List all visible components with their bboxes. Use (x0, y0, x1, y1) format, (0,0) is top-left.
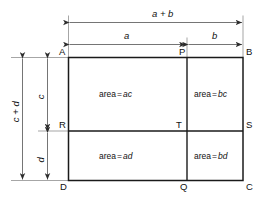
area-word-top-right: area (194, 89, 211, 99)
vertex-label-t: T (176, 120, 182, 130)
vertex-label-r: R (59, 120, 66, 130)
outer-rectangle (69, 58, 244, 181)
vertex-label-b: B (246, 47, 253, 57)
area-equals-bottom-left: = (116, 151, 123, 161)
area-word-bottom-right: area (194, 151, 211, 161)
area-value-bottom-left: ad (123, 151, 132, 161)
dimension-label-left-width: a (124, 31, 129, 41)
dimension-label-right-width: b (212, 31, 217, 41)
dimension-label-total-height: c + d (11, 101, 21, 122)
dimension-label-upper-height: c (36, 94, 46, 99)
area-label-bottom-left: area=ad (99, 152, 132, 161)
area-label-top-right: area=bc (194, 90, 227, 99)
vertex-label-d: D (60, 182, 67, 192)
area-model-diagram: a + b a b c + d c d A B C D P Q R S T ar… (0, 0, 268, 206)
vertex-label-c: C (246, 182, 253, 192)
area-equals-top-left: = (116, 89, 123, 99)
dimension-label-total-width: a + b (152, 9, 173, 19)
area-equals-top-right: = (211, 89, 218, 99)
area-label-bottom-right: area=bd (194, 152, 227, 161)
area-value-top-left: ac (123, 89, 132, 99)
vertex-label-s: S (246, 120, 253, 130)
diagram-lines (0, 0, 268, 206)
area-value-top-right: bc (218, 89, 227, 99)
area-word-bottom-left: area (99, 151, 116, 161)
area-equals-bottom-right: = (211, 151, 218, 161)
vertex-label-a: A (59, 47, 66, 57)
vertex-label-q: Q (180, 182, 188, 192)
area-word-top-left: area (99, 89, 116, 99)
area-label-top-left: area=ac (99, 90, 132, 99)
vertex-label-p: P (179, 47, 186, 57)
area-value-bottom-right: bd (218, 151, 227, 161)
dimension-label-lower-height: d (36, 157, 46, 162)
